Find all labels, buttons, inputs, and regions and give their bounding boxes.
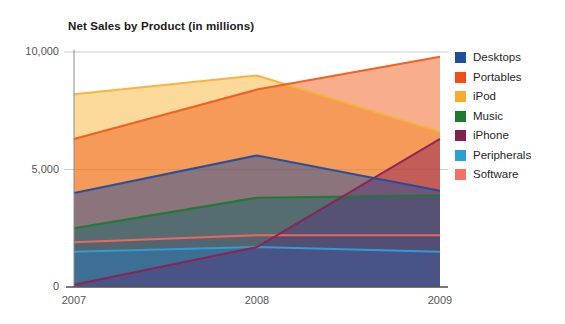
legend-swatch-icon: [455, 130, 466, 141]
legend-item-portables[interactable]: Portables: [455, 68, 565, 88]
legend-swatch-icon: [455, 72, 466, 83]
legend-swatch-icon: [455, 169, 466, 180]
legend-swatch-icon: [455, 91, 466, 102]
legend-item-software[interactable]: Software: [455, 165, 565, 185]
x-tick-label: 2009: [410, 294, 470, 306]
legend-item-label: iPhone: [473, 130, 509, 142]
y-tick-label: 10,000: [4, 45, 59, 57]
net-sales-area-chart: Net Sales by Product (in millions) 05,00…: [0, 0, 565, 324]
legend-item-label: Software: [473, 169, 518, 181]
legend-item-label: Desktops: [473, 52, 521, 64]
legend-item-label: Peripherals: [473, 150, 531, 162]
legend-item-desktops[interactable]: Desktops: [455, 48, 565, 68]
y-tick-label: 5,000: [4, 163, 59, 175]
legend-item-music[interactable]: Music: [455, 107, 565, 127]
legend-item-label: Portables: [473, 72, 522, 84]
legend-item-peripherals[interactable]: Peripherals: [455, 146, 565, 166]
legend-swatch-icon: [455, 150, 466, 161]
legend-item-label: Music: [473, 111, 503, 123]
chart-legend: DesktopsPortablesiPodMusiciPhonePeripher…: [455, 48, 565, 185]
legend-item-ipod[interactable]: iPod: [455, 87, 565, 107]
legend-item-label: iPod: [473, 91, 496, 103]
legend-swatch-icon: [455, 52, 466, 63]
legend-swatch-icon: [455, 111, 466, 122]
x-tick-label: 2007: [44, 294, 104, 306]
legend-item-iphone[interactable]: iPhone: [455, 126, 565, 146]
x-tick-label: 2008: [227, 294, 287, 306]
y-tick-label: 0: [4, 280, 59, 292]
